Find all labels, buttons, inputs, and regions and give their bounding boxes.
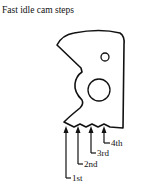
step-3-label: 3rd (97, 148, 109, 158)
step-4-label: 4th (111, 138, 123, 148)
step-1-leader (64, 126, 72, 178)
step-1-label: 1st (72, 173, 83, 183)
step-2-label: 2nd (84, 159, 98, 169)
step-4-leader (102, 126, 111, 143)
cam-outline (57, 31, 124, 129)
step-2-leader (76, 126, 84, 164)
small-hole (101, 53, 109, 61)
cam-diagram: 1st 2nd 3rd 4th (0, 0, 142, 189)
large-hole (88, 79, 110, 101)
step-3-leader (89, 126, 97, 153)
